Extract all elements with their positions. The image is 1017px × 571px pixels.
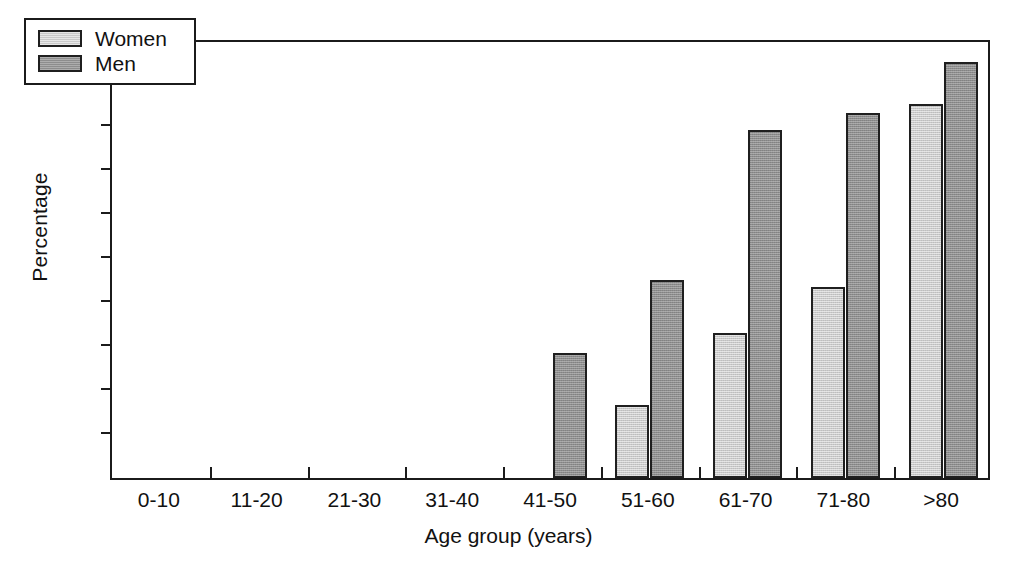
legend-label-women: Women [95,28,167,49]
bar-men-51-60 [650,280,684,478]
x-axis-tick [210,467,212,480]
x-axis-tick-label: 21-30 [328,488,382,512]
y-axis-tick [101,168,112,170]
x-axis-title: Age group (years) [0,524,1017,548]
x-axis-tick [699,467,701,480]
y-axis-tick [101,344,112,346]
x-axis-tick [308,467,310,480]
y-axis-tick [101,256,112,258]
x-axis-tick [601,467,603,480]
x-axis-tick-label: 0-10 [138,488,180,512]
y-axis-title: Percentage [28,127,52,327]
x-axis-tick-label: 71-80 [816,488,870,512]
chart-legend: Women Men [24,18,196,85]
bar-women-61-70 [713,333,747,478]
x-axis-tick-label: 11-20 [231,488,283,512]
x-axis-tick-label: 51-60 [621,488,675,512]
y-axis-tick [101,300,112,302]
bar-women->80 [909,104,943,478]
legend-swatch-women-icon [38,30,82,47]
legend-item-men: Men [38,51,184,76]
legend-item-women: Women [38,26,184,51]
bar-men-41-50 [553,353,587,478]
x-axis-tick [796,467,798,480]
chart-figure: Percentage 0102030405060708090100 0-1011… [0,0,1017,571]
y-axis-tick [101,212,112,214]
bar-women-71-80 [811,287,845,478]
legend-swatch-men-icon [38,55,82,72]
x-axis-tick-label: 41-50 [523,488,577,512]
x-axis-tick-label: 61-70 [719,488,773,512]
legend-label-men: Men [95,53,136,74]
x-axis-tick [503,467,505,480]
y-axis-tick [101,432,112,434]
bar-men-71-80 [846,113,880,478]
y-axis-tick [101,388,112,390]
x-axis-tick [894,467,896,480]
y-axis-tick [101,124,112,126]
plot-area [110,40,990,480]
x-axis-tick-label: >80 [923,488,959,512]
x-axis-tick [405,467,407,480]
x-axis-tick-label: 31-40 [425,488,479,512]
bar-women-51-60 [615,405,649,478]
bar-men-61-70 [748,130,782,478]
bar-men->80 [944,62,978,478]
